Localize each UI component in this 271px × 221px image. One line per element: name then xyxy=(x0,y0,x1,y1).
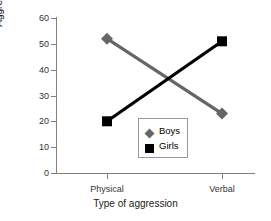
series-line-girls xyxy=(107,41,222,121)
line-chart: 60 50 40 30 20 10 0 Physical xyxy=(0,0,271,221)
marker-girls-verbal xyxy=(217,36,227,46)
y-axis-title: Aggression level xyxy=(0,0,4,50)
legend-label-boys: Boys xyxy=(159,126,180,136)
legend-item-girls: Girls xyxy=(144,138,187,153)
series-line-boys xyxy=(107,39,222,114)
series-layer xyxy=(0,0,271,221)
diamond-marker-icon xyxy=(144,125,155,136)
chart-legend: Boys Girls xyxy=(138,118,188,158)
legend-label-girls: Girls xyxy=(159,141,179,151)
square-marker-icon xyxy=(144,140,155,151)
legend-item-boys: Boys xyxy=(144,123,187,138)
marker-girls-physical xyxy=(102,116,112,126)
x-axis-title: Type of aggression xyxy=(0,199,271,209)
